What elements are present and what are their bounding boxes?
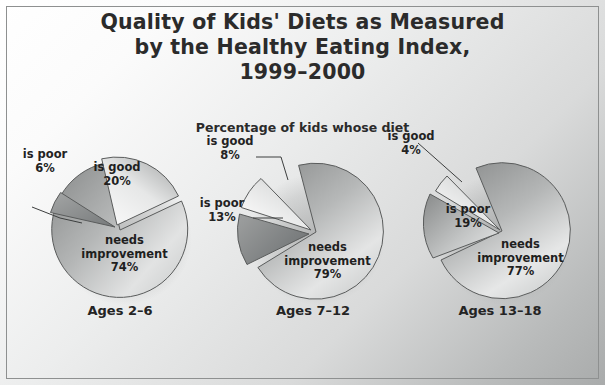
pie-2-value-is-good: 8%: [220, 148, 240, 162]
chart-page: Quality of Kids' Diets as Measured by th…: [0, 0, 605, 385]
pie-3-label-is-good: is good: [387, 129, 434, 143]
pie-1-label-needs-1: needs: [105, 233, 144, 247]
pie-3-inlabel-is-poor: is poor 19%: [430, 203, 506, 230]
title-line-1: Quality of Kids' Diets as Measured: [0, 10, 605, 35]
pie-3-label-is-poor: is poor: [446, 202, 491, 216]
pie-3-label-needs-1: needs: [501, 237, 540, 251]
page-title: Quality of Kids' Diets as Measured by th…: [0, 10, 605, 85]
pie-2-value-needs: 79%: [314, 267, 342, 281]
pie-3-inlabel-needs-improvement: needs improvement 77%: [448, 238, 593, 279]
pie-1-value-is-good: 20%: [103, 174, 131, 188]
pie-2-callout-is-poor: is poor 13%: [187, 197, 257, 224]
pie-2-inlabel-needs-improvement: needs improvement 79%: [255, 241, 400, 282]
title-line-2: by the Healthy Eating Index,: [0, 35, 605, 60]
title-line-3: 1999–2000: [0, 60, 605, 85]
pie-1-inlabel-is-good: is good 20%: [78, 161, 156, 188]
pie-2-callout-is-good: is good 8%: [191, 135, 269, 162]
pie-1-label-is-poor: is poor: [23, 147, 68, 161]
pie-2-label-needs-1: needs: [308, 240, 347, 254]
category-label-ages-7-12: Ages 7–12: [213, 303, 413, 318]
pie-2-label-needs-2: improvement: [284, 254, 371, 268]
pie-2-label-is-poor: is poor: [200, 196, 245, 210]
pie-3-value-is-good: 4%: [401, 143, 421, 157]
category-label-ages-13-18: Ages 13–18: [400, 303, 600, 318]
pie-1-label-needs-2: improvement: [81, 247, 168, 261]
category-labels: Ages 2–6 Ages 7–12 Ages 13–18: [0, 303, 605, 329]
pie-1-value-is-poor: 6%: [35, 161, 55, 175]
pie-2-label-is-good: is good: [206, 134, 253, 148]
pie-3-value-needs: 77%: [507, 264, 535, 278]
chart-subtitle: Percentage of kids whose diet: [0, 120, 605, 135]
pie-1-value-needs: 74%: [111, 260, 139, 274]
pie-1-callout-is-poor: is poor 6%: [8, 148, 82, 175]
pie-2-value-is-poor: 13%: [208, 210, 236, 224]
pie-3-label-needs-2: improvement: [477, 251, 564, 265]
pie-1-inlabel-needs-improvement: needs improvement 74%: [52, 234, 197, 275]
pie-1-label-is-good: is good: [93, 160, 140, 174]
pie-3-callout-is-good: is good 4%: [372, 130, 450, 157]
pie-3-value-is-poor: 19%: [454, 216, 482, 230]
category-label-ages-2-6: Ages 2–6: [20, 303, 220, 318]
